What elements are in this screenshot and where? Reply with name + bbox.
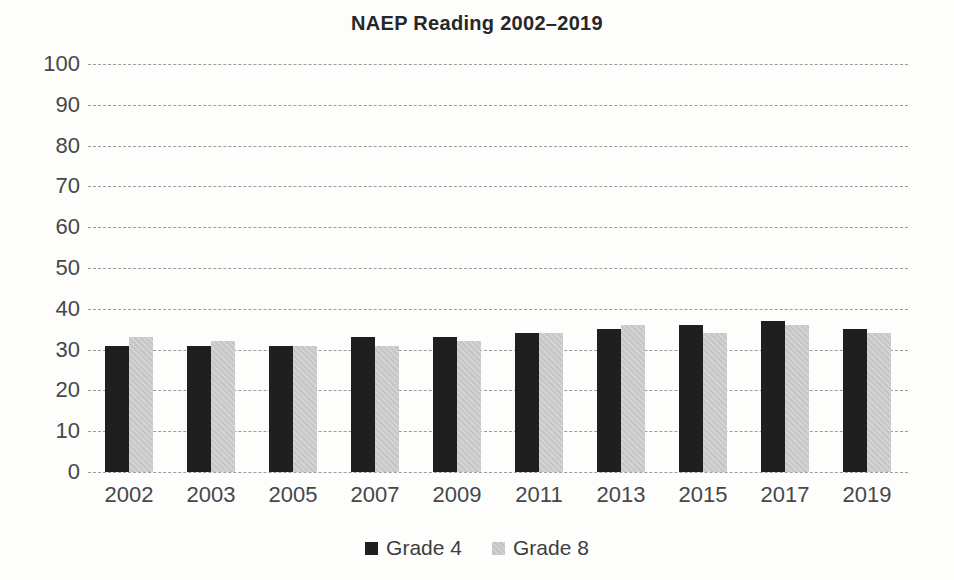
bar-grade8-2005	[293, 346, 317, 472]
y-tick-label-10: 10	[56, 420, 80, 442]
bar-grade4-2019	[843, 329, 867, 472]
bar-grade8-2002	[129, 337, 153, 472]
x-tick-label-2009: 2009	[416, 481, 498, 509]
y-tick-label-100: 100	[43, 53, 80, 75]
bar-grade4-2005	[269, 346, 293, 472]
bar-grade8-2009	[457, 341, 481, 472]
bar-grade8-2011	[539, 333, 563, 472]
bar-group-2005	[252, 64, 334, 472]
bar-grade8-2015	[703, 333, 727, 472]
x-tick-label-2019: 2019	[826, 481, 908, 509]
bar-group-2019	[826, 64, 908, 472]
x-tick-label-2013: 2013	[580, 481, 662, 509]
bar-grade4-2007	[351, 337, 375, 472]
bar-group-2011	[498, 64, 580, 472]
y-tick-label-50: 50	[56, 257, 80, 279]
bar-group-2002	[88, 64, 170, 472]
bar-grade8-2017	[785, 325, 809, 472]
bar-grade4-2015	[679, 325, 703, 472]
x-tick-label-2007: 2007	[334, 481, 416, 509]
bar-grade4-2002	[105, 346, 129, 472]
bar-grade4-2017	[761, 321, 785, 472]
y-tick-label-30: 30	[56, 339, 80, 361]
bar-grade4-2009	[433, 337, 457, 472]
y-tick-label-80: 80	[56, 135, 80, 157]
bar-group-2017	[744, 64, 826, 472]
x-tick-label-2017: 2017	[744, 481, 826, 509]
chart-figure: NAEP Reading 2002–2019 01020304050607080…	[0, 0, 954, 580]
x-tick-label-2011: 2011	[498, 481, 580, 509]
bar-group-2003	[170, 64, 252, 472]
x-tick-label-2002: 2002	[88, 481, 170, 509]
legend-item-grade4: Grade 4	[365, 536, 462, 560]
y-tick-label-90: 90	[56, 94, 80, 116]
bar-group-2013	[580, 64, 662, 472]
legend-label: Grade 4	[386, 536, 462, 560]
x-tick-label-2003: 2003	[170, 481, 252, 509]
bar-group-2007	[334, 64, 416, 472]
y-axis: 0102030405060708090100	[0, 64, 80, 472]
bar-grade8-2013	[621, 325, 645, 472]
bar-grade4-2003	[187, 346, 211, 472]
x-tick-label-2005: 2005	[252, 481, 334, 509]
legend-label: Grade 8	[513, 536, 589, 560]
chart-title: NAEP Reading 2002–2019	[0, 12, 954, 35]
bar-groups	[88, 64, 908, 472]
x-tick-label-2015: 2015	[662, 481, 744, 509]
legend-item-grade8: Grade 8	[492, 536, 589, 560]
y-tick-label-70: 70	[56, 175, 80, 197]
bar-grade8-2003	[211, 341, 235, 472]
bar-grade4-2013	[597, 329, 621, 472]
bar-grade8-2007	[375, 346, 399, 472]
legend-swatch-icon	[492, 542, 505, 555]
bar-grade8-2019	[867, 333, 891, 472]
bar-group-2015	[662, 64, 744, 472]
bar-grade4-2011	[515, 333, 539, 472]
y-tick-label-20: 20	[56, 379, 80, 401]
gridline-0	[88, 472, 908, 473]
legend-swatch-icon	[365, 542, 378, 555]
bar-group-2009	[416, 64, 498, 472]
y-tick-label-60: 60	[56, 216, 80, 238]
y-tick-label-40: 40	[56, 298, 80, 320]
x-axis: 2002200320052007200920112013201520172019	[88, 481, 908, 509]
legend: Grade 4Grade 8	[0, 536, 954, 560]
plot-area	[88, 64, 908, 472]
y-tick-label-0: 0	[68, 461, 80, 483]
